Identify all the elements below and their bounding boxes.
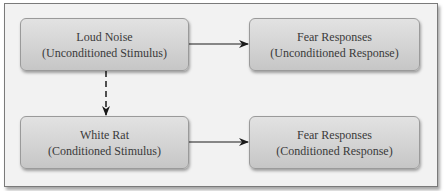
- node-title: Loud Noise: [76, 29, 132, 45]
- node-title: White Rat: [80, 127, 129, 143]
- node-conditioned-stimulus: White Rat (Conditioned Stimulus): [20, 116, 189, 169]
- node-subtitle: (Unconditioned Response): [270, 45, 398, 61]
- node-subtitle: (Conditioned Stimulus): [48, 143, 161, 159]
- node-unconditioned-stimulus: Loud Noise (Unconditioned Stimulus): [20, 18, 189, 71]
- node-title: Fear Responses: [297, 127, 372, 143]
- node-conditioned-response: Fear Responses (Conditioned Response): [249, 116, 420, 169]
- node-title: Fear Responses: [297, 29, 372, 45]
- node-unconditioned-response: Fear Responses (Unconditioned Response): [249, 18, 420, 71]
- node-subtitle: (Conditioned Response): [276, 143, 392, 159]
- node-subtitle: (Unconditioned Stimulus): [42, 45, 167, 61]
